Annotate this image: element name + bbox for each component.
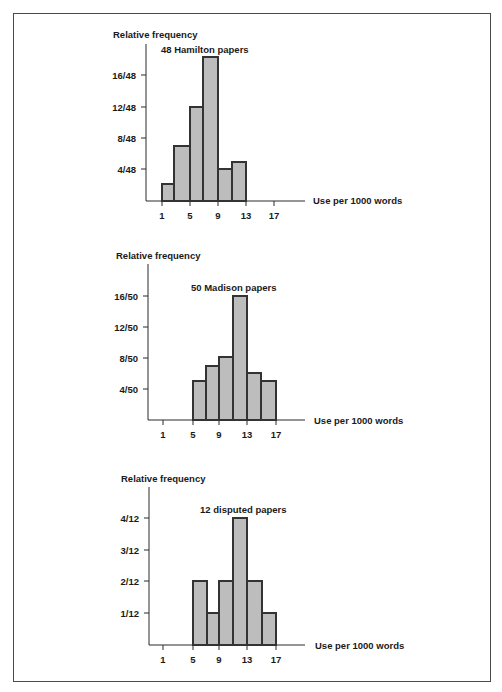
svg-text:5: 5 (190, 654, 196, 665)
svg-text:3/12: 3/12 (121, 545, 140, 556)
bar-13-15 (247, 581, 262, 645)
y-ticks: 4/12 3/12 2/12 1/12 (121, 513, 150, 619)
svg-text:2/12: 2/12 (121, 576, 140, 587)
disputed-histogram: Relative frequency 12 disputed papers 4/… (0, 0, 502, 692)
svg-text:1: 1 (160, 654, 166, 665)
bar-9-11 (219, 581, 233, 645)
svg-text:17: 17 (271, 654, 282, 665)
y-axis-label: Relative frequency (121, 473, 206, 484)
bar-15-17 (262, 613, 276, 645)
svg-text:13: 13 (242, 654, 253, 665)
x-axis-label: Use per 1000 words (315, 640, 404, 651)
svg-text:1/12: 1/12 (121, 608, 140, 619)
svg-text:9: 9 (216, 654, 221, 665)
chart-title: 12 disputed papers (200, 504, 287, 515)
bar-7-9 (207, 613, 219, 645)
bars (193, 518, 276, 645)
bar-11-13 (233, 518, 247, 645)
svg-text:4/12: 4/12 (121, 513, 140, 524)
bar-5-7 (193, 581, 207, 645)
x-ticks: 1 5 9 13 17 (160, 645, 281, 665)
